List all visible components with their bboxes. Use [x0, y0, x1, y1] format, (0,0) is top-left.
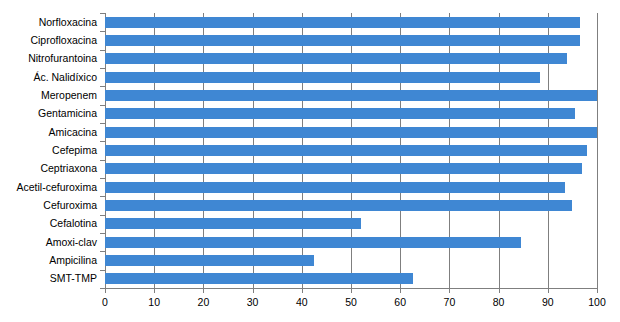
category-label: Amicacina [49, 127, 97, 138]
x-axis-tick-label: 80 [493, 296, 505, 308]
category-label: Ciprofloxacina [30, 35, 97, 46]
x-axis-tick [499, 288, 500, 293]
category-label: SMT-TMP [50, 273, 97, 284]
bar [105, 145, 587, 156]
bar [105, 72, 540, 83]
category-axis-labels: NorfloxacinaCiprofloxacinaNitrofurantoin… [0, 13, 97, 288]
category-tick [100, 233, 105, 234]
category-tick [100, 288, 105, 289]
x-axis-tick-label: 60 [394, 296, 406, 308]
category-label: Ác. Nalidíxico [33, 72, 97, 83]
category-label: Norfloxacina [39, 17, 97, 28]
category-tick [100, 50, 105, 51]
category-label: Acetil-cefuroxima [16, 182, 97, 193]
gridline-100 [597, 13, 598, 288]
bar [105, 53, 567, 64]
x-axis-tick-label: 50 [345, 296, 357, 308]
x-axis-tick-label: 30 [247, 296, 259, 308]
category-tick [100, 178, 105, 179]
bar [105, 108, 575, 119]
bar [105, 273, 413, 284]
x-axis-tick [105, 288, 106, 293]
bar [105, 17, 580, 28]
x-axis-tick [597, 288, 598, 293]
bar [105, 90, 597, 101]
bar [105, 200, 572, 211]
category-label: Cefepima [52, 145, 97, 156]
category-tick [100, 270, 105, 271]
category-tick [100, 86, 105, 87]
category-tick [100, 215, 105, 216]
x-axis-tick-label: 40 [296, 296, 308, 308]
category-label: Ceptriaxona [40, 163, 97, 174]
x-axis-tick-label: 70 [444, 296, 456, 308]
category-tick [100, 123, 105, 124]
x-axis-tick-label: 90 [542, 296, 554, 308]
x-axis-tick [203, 288, 204, 293]
x-axis-tick [302, 288, 303, 293]
bar-chart: NorfloxacinaCiprofloxacinaNitrofurantoin… [0, 0, 620, 322]
bar [105, 163, 582, 174]
plot-area [105, 13, 597, 288]
category-label: Cefuroxima [43, 200, 97, 211]
category-tick [100, 196, 105, 197]
bar [105, 35, 580, 46]
bar [105, 237, 521, 248]
category-label: Nitrofurantoina [28, 53, 97, 64]
category-tick [100, 68, 105, 69]
scan-noise-band [0, 0, 620, 6]
x-axis-tick-label: 20 [198, 296, 210, 308]
category-tick [100, 31, 105, 32]
x-axis-tick [351, 288, 352, 293]
category-label: Gentamicina [38, 108, 97, 119]
category-label: Cefalotina [50, 218, 97, 229]
category-tick [100, 141, 105, 142]
x-axis-tick [154, 288, 155, 293]
bar [105, 218, 361, 229]
x-axis-tick [548, 288, 549, 293]
category-tick [100, 105, 105, 106]
x-axis-tick-label: 10 [148, 296, 160, 308]
category-label: Amoxi-clav [46, 237, 97, 248]
bar [105, 182, 565, 193]
bar [105, 127, 597, 138]
x-axis-tick-label: 0 [102, 296, 108, 308]
x-axis-tick [449, 288, 450, 293]
x-axis-tick [253, 288, 254, 293]
category-label: Meropenem [41, 90, 97, 101]
x-axis-tick [400, 288, 401, 293]
x-axis-tick-label: 100 [588, 296, 606, 308]
category-label: Ampicilina [49, 255, 97, 266]
category-tick [100, 160, 105, 161]
bar [105, 255, 314, 266]
category-tick [100, 251, 105, 252]
category-tick [100, 13, 105, 14]
